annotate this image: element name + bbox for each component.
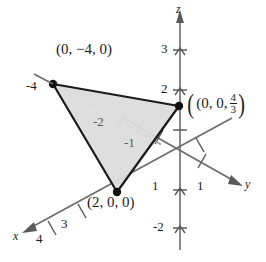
close-paren: ) xyxy=(238,93,245,115)
fraction-numerator: 4 xyxy=(230,92,238,103)
y-tick-label-1b: 1 xyxy=(197,179,204,192)
x-tick-label-3: 3 xyxy=(61,217,68,230)
x-tick-label-4: 4 xyxy=(36,232,43,245)
z-tick-label-neg2: -2 xyxy=(153,220,164,233)
point-label-0-0-4thirds: ( (0, 0, 4 3 ) xyxy=(186,92,246,115)
fraction-4-over-3: 4 3 xyxy=(230,92,238,115)
y-axis-label: y xyxy=(245,178,250,190)
shaded-triangle-region xyxy=(53,84,179,192)
z-tick-label-2: 2 xyxy=(161,82,168,95)
z-axis-label: z xyxy=(176,3,181,15)
point-label-0-neg4-0: (0, −4, 0) xyxy=(56,42,112,57)
negative-y-tick-label-neg2: -2 xyxy=(93,115,104,128)
fraction-denominator: 3 xyxy=(230,103,238,115)
open-paren: ( xyxy=(187,93,194,115)
vertex-dot-0-0-4thirds xyxy=(175,102,183,110)
y-axis-arrowhead xyxy=(228,175,243,186)
x-axis-arrowhead xyxy=(22,222,37,233)
z-tick-label-3: 3 xyxy=(161,42,168,55)
coordinate-system-figure xyxy=(0,0,266,262)
point-label-2-0-0: (2, 0, 0) xyxy=(87,195,135,210)
y-tick-label-1a: 1 xyxy=(152,179,159,192)
fraction-label-prefix: (0, 0, xyxy=(196,96,227,111)
negative-y-tick-label-neg1: -1 xyxy=(124,136,135,149)
x-axis-label: x xyxy=(13,230,18,242)
negative-x-tick-label-neg4: -4 xyxy=(26,79,37,92)
